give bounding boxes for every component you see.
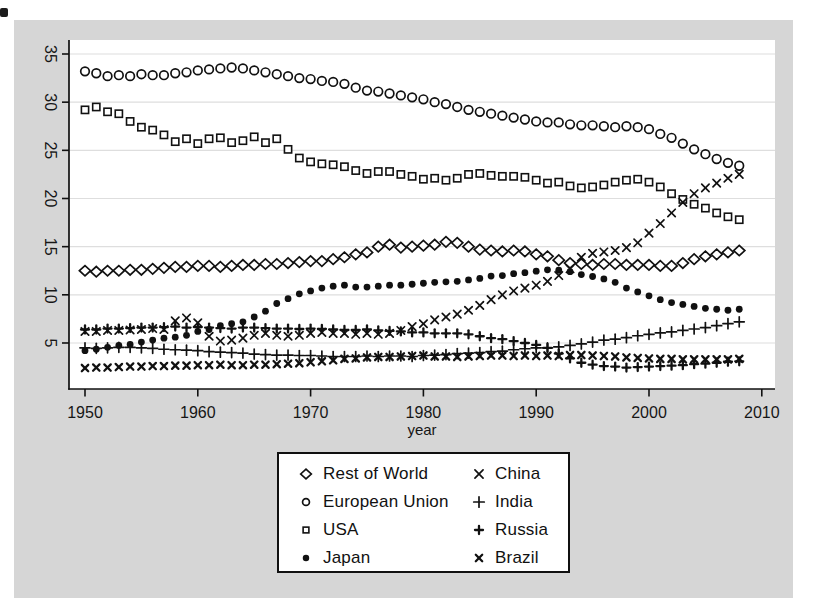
x-axis-title: year — [407, 421, 436, 438]
diamond-legend-icon — [289, 464, 323, 484]
x-tick-label-1960: 1960 — [180, 404, 216, 421]
plus-legend-icon — [463, 492, 495, 512]
dot-legend-icon — [289, 548, 323, 568]
legend-label-usa: USA — [323, 520, 463, 540]
legend-label-india: India — [495, 492, 564, 512]
y-tick-label-15: 15 — [42, 238, 59, 256]
y-tick-label-25: 25 — [42, 141, 59, 159]
x-legend-icon — [463, 464, 495, 484]
legend-label-brazil: Brazil — [495, 548, 564, 568]
y-tick-label-20: 20 — [42, 190, 59, 208]
legend-label-russia: Russia — [495, 520, 564, 540]
x-tick-label-1950: 1950 — [67, 404, 103, 421]
circle-legend-icon — [289, 492, 323, 512]
x-tick-label-2010: 2010 — [744, 404, 780, 421]
square-legend-icon — [289, 520, 323, 540]
x-axis-tick-labels: 1950196019701980199020002010 — [67, 404, 779, 421]
x-tick-label-1980: 1980 — [406, 404, 442, 421]
y-tick-label-35: 35 — [42, 45, 59, 63]
x-tick-label-1970: 1970 — [293, 404, 329, 421]
x-tick-label-1990: 1990 — [518, 404, 554, 421]
y-tick-label-5: 5 — [42, 339, 59, 348]
legend-label-rest-of-world: Rest of World — [323, 464, 463, 484]
y-tick-label-30: 30 — [42, 93, 59, 111]
y-tick-label-10: 10 — [42, 286, 59, 304]
legend-label-european-union: European Union — [323, 492, 463, 512]
chart-legend: Rest of WorldChinaEuropean UnionIndiaUSA… — [277, 452, 570, 573]
plus-bold-legend-icon — [463, 520, 495, 540]
legend-label-japan: Japan — [323, 548, 463, 568]
screenshot-root: 1950196019701980199020002010 35302520151… — [0, 0, 814, 615]
legend-label-china: China — [495, 464, 564, 484]
x-tick-label-2000: 2000 — [631, 404, 667, 421]
y-axis-tick-labels: 3530252015105 — [42, 45, 59, 347]
x-bold-legend-icon — [463, 548, 495, 568]
